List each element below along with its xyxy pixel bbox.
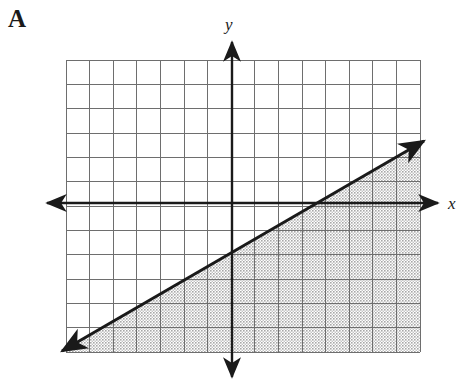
figure-root: A: [0, 0, 468, 389]
coordinate-graph: x y: [0, 0, 468, 389]
x-axis-label: x: [447, 194, 456, 213]
y-axis-label: y: [223, 15, 233, 34]
